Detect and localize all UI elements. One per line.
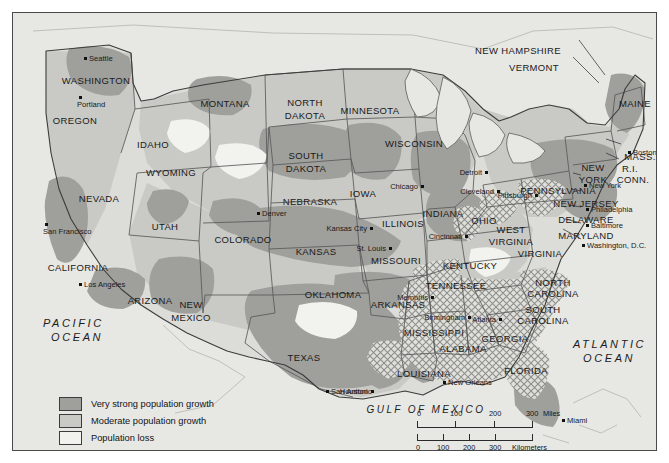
legend-label-moderate-population-growth: Moderate population growth (91, 416, 206, 426)
legend-swatch-vstrong (59, 397, 82, 411)
scale-km-tick-300: 300 (489, 443, 501, 451)
legend-item-population-loss: Population loss (59, 430, 274, 446)
state-label-louisiana: LOUISIANA (397, 369, 451, 379)
state-label-kansas: KANSAS (296, 247, 337, 257)
state-label-washington: WASHINGTON (62, 76, 130, 86)
city-label-detroit: Detroit (460, 169, 482, 177)
state-label-maryland: MARYLAND (558, 231, 613, 241)
city-label-new-york: New York (589, 182, 621, 190)
city-marker-memphis (431, 296, 434, 299)
state-label-wyoming: WYOMING (146, 168, 196, 178)
city-label-denver: Denver (262, 210, 286, 218)
legend-label-african-american-migration: African-American migration (89, 450, 201, 451)
state-label-north: NORTH (535, 278, 570, 288)
state-label-idaho: IDAHO (137, 140, 169, 150)
state-label-florida: FLORIDA (504, 366, 548, 376)
city-marker-atlanta (499, 318, 502, 321)
legend-item-african-american-migration: African-American migration (59, 447, 274, 451)
city-marker-kansas-city (370, 227, 373, 230)
city-marker-detroit (485, 171, 488, 174)
state-label-west: WEST (497, 225, 526, 235)
city-label-miami: Miami (567, 417, 587, 425)
city-marker-los-angeles (79, 283, 82, 286)
scale-km-tick-100: 100 (437, 443, 449, 451)
city-label-cincinnati: Cincinnati (429, 233, 462, 241)
state-label-carolina: CAROLINA (527, 289, 578, 299)
state-label-carolina: CAROLINA (517, 316, 568, 326)
state-label-california: CALIFORNIA (48, 263, 109, 273)
scale-miles-tick-100: 100 (450, 409, 462, 418)
state-label-oregon: OREGON (53, 116, 97, 126)
state-label-virginia: VIRGINIA (518, 249, 563, 259)
atlantic-ocean-label-line1: ATLANTIC (573, 339, 646, 350)
state-label-illinois: ILLINOIS (382, 219, 424, 229)
state-label-kentucky: KENTUCKY (443, 261, 498, 271)
city-marker-boston (628, 151, 631, 154)
state-label-indiana: INDIANA (423, 209, 464, 219)
city-label-boston: Boston (633, 149, 657, 157)
city-marker-seattle (84, 57, 87, 60)
city-label-seattle: Seattle (89, 55, 113, 63)
scale-km-line (417, 433, 533, 441)
state-label-virginia: VIRGINIA (489, 237, 534, 247)
state-label-colorado: COLORADO (214, 235, 271, 245)
state-label-new-hampshire: NEW HAMPSHIRE (475, 46, 561, 56)
atlantic-ocean-label-line2: OCEAN (583, 353, 646, 364)
city-marker-st-louis (389, 247, 392, 250)
city-label-baltimore: Baltimore (591, 222, 623, 230)
state-label-iowa: IOWA (350, 189, 376, 199)
map-figure: WASHINGTONOREGONIDAHOMONTANAWYOMINGNEVAD… (0, 0, 669, 463)
state-label-south: SOUTH (289, 151, 324, 161)
atlantic-ocean-label: ATLANTICOCEAN (573, 339, 646, 364)
city-label-philadelphia: Philadelphia (591, 206, 632, 214)
city-label-kansas-city: Kansas City (326, 225, 367, 233)
state-label-north: NORTH (287, 98, 322, 108)
city-marker-chicago (421, 185, 424, 188)
legend-label-population-loss: Population loss (91, 433, 154, 443)
city-label-washington-d-c: Washington, D.C. (587, 242, 646, 250)
state-label-georgia: GEORGIA (482, 334, 529, 344)
state-label-montana: MONTANA (200, 99, 249, 109)
state-label-mexico: MEXICO (171, 313, 211, 323)
pacific-ocean-label-line2: OCEAN (51, 332, 104, 343)
state-label-maine: MAINE (619, 99, 651, 109)
pacific-ocean-label-line1: PACIFIC (43, 318, 104, 329)
legend-item-very-strong-population-growth: Very strong population growth (59, 396, 274, 412)
map-legend: Very strong population growthModerate po… (59, 396, 274, 451)
scale-km-tick-200: 200 (463, 443, 475, 451)
city-label-pittsburgh: Pittsburgh (498, 192, 532, 200)
legend-swatch-migr-arrow-icon (59, 449, 80, 451)
state-label-new: NEW (179, 300, 202, 310)
city-marker-baltimore (586, 224, 589, 227)
state-label-ohio: OHIO (471, 216, 497, 226)
state-label-dakota: DAKOTA (285, 111, 325, 121)
city-marker-pittsburgh (535, 194, 538, 197)
scale-bar: 0 100 200 300 Miles 0 100 200 300 Kilome… (417, 409, 567, 451)
state-label-oklahoma: OKLAHOMA (305, 290, 362, 300)
city-label-st-louis: St. Louis (356, 245, 386, 253)
state-label-missouri: MISSOURI (371, 256, 421, 266)
state-label-r-i: R.I. (622, 164, 638, 174)
state-label-south: SOUTH (526, 305, 561, 315)
city-label-portland: Portland (77, 101, 105, 109)
city-label-los-angeles: Los Angeles (84, 281, 125, 289)
state-label-utah: UTAH (152, 222, 179, 232)
state-label-tennessee: TENNESSEE (426, 281, 487, 291)
scale-miles-unit: Miles (543, 409, 560, 418)
state-label-mississippi: MISSISSIPPI (404, 328, 464, 338)
city-marker-philadelphia (586, 208, 589, 211)
scale-km-numbers: 0 100 200 300 Kilometers (417, 443, 567, 451)
city-marker-birmingham (468, 316, 471, 319)
city-label-cleveland: Cleveland (460, 188, 494, 196)
city-label-san-antonio: San Antonio (331, 388, 372, 396)
scale-miles-tick-300: 300 (526, 409, 538, 418)
scale-km-unit: Kilometers (512, 443, 547, 451)
state-label-arizona: ARIZONA (128, 296, 173, 306)
city-label-birmingham: Birmingham (424, 314, 465, 322)
city-marker-new-york (584, 184, 587, 187)
state-label-minnesota: MINNESOTA (341, 106, 400, 116)
state-label-conn: CONN. (617, 175, 649, 185)
state-label-vermont: VERMONT (509, 63, 559, 73)
scale-miles-numbers: 0 100 200 300 Miles (417, 409, 567, 420)
pacific-ocean-label: PACIFICOCEAN (43, 318, 104, 343)
